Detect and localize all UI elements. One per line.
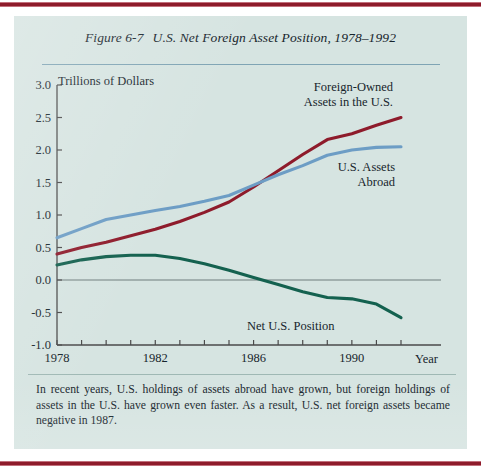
- tick-marks-group: [57, 85, 401, 345]
- series-label-line: Net U.S. Position: [247, 319, 335, 334]
- bottom-border-hairline-lower: [0, 465, 481, 466]
- series-label-us-assets-abroad: U.S. AssetsAbroad: [338, 160, 395, 190]
- figure-root: Figure 6-7U.S. Net Foreign Asset Positio…: [0, 0, 481, 470]
- series-line-2: [57, 255, 401, 317]
- bottom-border-hairline-upper: [0, 461, 481, 462]
- figure-caption: In recent years, U.S. holdings of assets…: [36, 382, 450, 429]
- x-tick-label: 1978: [27, 352, 87, 365]
- top-border-hairline-upper: [0, 2, 481, 3]
- y-tick-label: 1.5: [17, 177, 51, 190]
- series-label-line: Assets in the U.S.: [304, 95, 393, 110]
- series-label-foreign-owned-assets: Foreign-OwnedAssets in the U.S.: [304, 80, 393, 110]
- series-label-net-us-position: Net U.S. Position: [247, 319, 335, 334]
- top-border-bar: [0, 2, 481, 7]
- caption-divider: [28, 374, 456, 375]
- y-tick-label: 0.5: [17, 242, 51, 255]
- top-border-hairline-lower: [0, 6, 481, 7]
- series-label-line: U.S. Assets: [338, 160, 395, 175]
- y-axis-title: Trillions of Dollars: [58, 74, 154, 89]
- x-axis-title: Year: [415, 352, 438, 367]
- series-group: [57, 118, 401, 318]
- series-label-line: Foreign-Owned: [304, 80, 393, 95]
- y-tick-label: -1.0: [17, 339, 51, 352]
- x-tick-label: 1986: [224, 352, 284, 365]
- y-tick-label: 2.5: [17, 112, 51, 125]
- x-tick-label: 1990: [322, 352, 382, 365]
- y-tick-label: 0.0: [17, 274, 51, 287]
- y-tick-label: 3.0: [17, 79, 51, 92]
- y-tick-label: 1.0: [17, 209, 51, 222]
- x-tick-label: 1982: [125, 352, 185, 365]
- figure-panel: Figure 6-7U.S. Net Foreign Asset Positio…: [14, 16, 467, 449]
- bottom-border-bar: [0, 461, 481, 466]
- y-tick-label: 2.0: [17, 144, 51, 157]
- y-tick-label: -0.5: [17, 307, 51, 320]
- series-label-line: Abroad: [338, 175, 395, 190]
